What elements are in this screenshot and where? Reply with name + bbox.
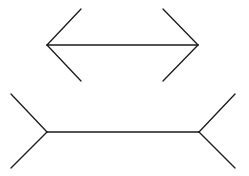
fin-line bbox=[199, 132, 235, 168]
fin-line bbox=[11, 94, 47, 132]
fin-line bbox=[47, 9, 81, 45]
fin-line bbox=[199, 94, 235, 132]
fin-line bbox=[47, 45, 81, 81]
fin-line bbox=[163, 45, 198, 81]
fin-line bbox=[163, 9, 198, 45]
figure-fins-outward bbox=[11, 94, 235, 168]
fin-line bbox=[11, 132, 47, 168]
figure-arrowheads-inward bbox=[47, 9, 198, 81]
muller-lyer-diagram bbox=[0, 0, 249, 176]
